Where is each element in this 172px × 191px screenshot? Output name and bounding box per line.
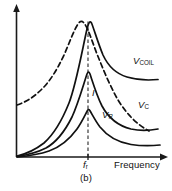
curve-label-current-text: I — [92, 87, 95, 98]
resonance-tick-label: fr — [83, 160, 88, 170]
curve-label-current: I — [92, 88, 95, 98]
y-axis-arrowhead — [13, 4, 20, 12]
curve-label-vr-subscript: R — [108, 113, 113, 120]
figure-caption: (b) — [0, 173, 172, 183]
x-axis-arrowhead — [160, 154, 168, 161]
curve-label-vcoil-subscript: COIL — [139, 59, 154, 66]
curve-label-vcoil: VCOIL — [133, 56, 154, 66]
resonance-tick-label-subscript: r — [86, 163, 88, 170]
curve-vc — [17, 21, 149, 131]
curve-label-vc-subscript: C — [144, 103, 149, 110]
curve-label-vc: VC — [138, 100, 149, 110]
curve-label-vr: VR — [102, 110, 113, 120]
x-axis-label: Frequency — [114, 160, 160, 170]
resonance-figure: VCOIL VC VR I fr Frequency (b) — [0, 0, 172, 191]
